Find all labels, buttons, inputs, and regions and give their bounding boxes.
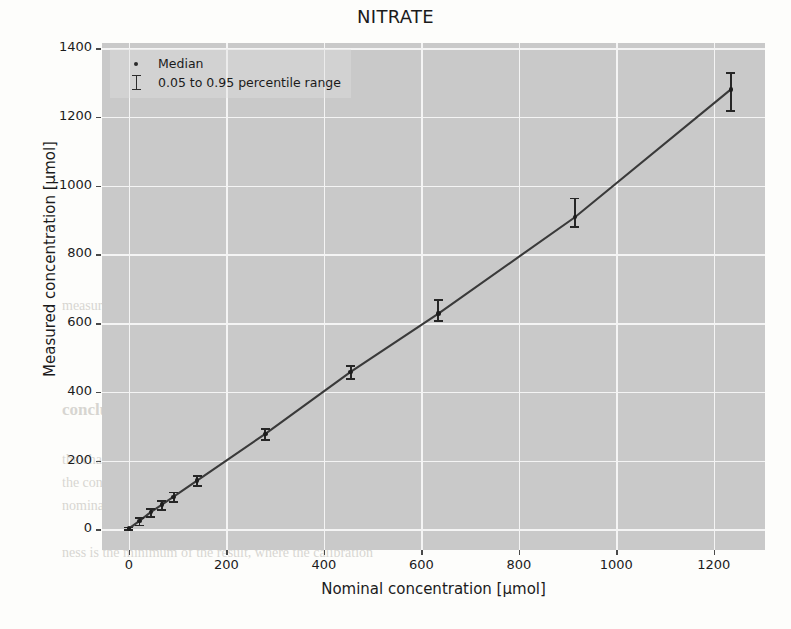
- error-bar-cap-lower: [193, 485, 202, 487]
- data-series-median: [102, 43, 765, 550]
- legend-label: Median: [156, 56, 203, 71]
- trend-line: [102, 43, 765, 550]
- median-marker: [171, 495, 175, 499]
- error-bar-cap-lower: [570, 226, 579, 228]
- y-tick: [96, 186, 101, 187]
- x-tick: [519, 550, 520, 555]
- median-marker: [729, 87, 733, 91]
- x-tick-label: 1000: [576, 557, 656, 572]
- error-bar-cap-lower: [146, 516, 155, 518]
- median-marker: [160, 502, 164, 506]
- median-marker: [348, 370, 352, 374]
- error-bar-cap-upper: [169, 492, 178, 494]
- error-bar-cap-upper: [726, 72, 735, 74]
- x-tick-label: 800: [479, 557, 559, 572]
- y-tick-label: 0: [22, 520, 92, 535]
- error-bar-cap-upper: [193, 475, 202, 477]
- x-tick-label: 400: [284, 557, 364, 572]
- error-bar-cap-lower: [261, 439, 270, 441]
- dot-marker-icon: [116, 62, 156, 66]
- y-tick: [96, 461, 101, 462]
- chart-figure: NITRATE Median 0.05 to 0.95 percentile r…: [0, 0, 791, 629]
- error-bar-cap-upper: [346, 365, 355, 367]
- x-axis-label: Nominal concentration [µmol]: [102, 580, 765, 598]
- error-bar-cap-lower: [157, 509, 166, 511]
- error-bar-cap-upper: [261, 428, 270, 430]
- error-bar-cap-lower: [346, 378, 355, 380]
- error-bar-cap-lower: [135, 525, 144, 527]
- error-bar-cap-lower: [726, 110, 735, 112]
- y-tick: [96, 254, 101, 255]
- error-bar-cap-lower: [434, 320, 443, 322]
- x-tick: [421, 550, 422, 555]
- median-marker: [137, 519, 141, 523]
- y-tick: [96, 529, 101, 530]
- y-tick: [96, 392, 101, 393]
- median-marker: [195, 478, 199, 482]
- error-bar: [574, 198, 576, 227]
- error-bar-cap-upper: [157, 500, 166, 502]
- y-tick: [96, 48, 101, 49]
- median-marker: [127, 526, 131, 530]
- error-bar-cap-lower: [169, 501, 178, 503]
- x-tick: [714, 550, 715, 555]
- x-tick: [616, 550, 617, 555]
- x-tick: [324, 550, 325, 555]
- y-axis-label: Measured concentration [µmol]: [41, 19, 59, 499]
- x-tick-label: 200: [186, 557, 266, 572]
- x-tick-label: 0: [89, 557, 169, 572]
- chart-legend: Median 0.05 to 0.95 percentile range: [110, 49, 351, 98]
- x-tick: [129, 550, 130, 555]
- x-tick-label: 1200: [674, 557, 754, 572]
- x-tick: [226, 550, 227, 555]
- error-bar-cap-upper: [570, 198, 579, 200]
- legend-item-median: Median: [116, 54, 341, 73]
- y-tick: [96, 117, 101, 118]
- errorbar-marker-icon: [116, 75, 156, 90]
- plot-area: Median 0.05 to 0.95 percentile range: [102, 43, 765, 550]
- median-marker: [436, 311, 440, 315]
- legend-item-percentile-range: 0.05 to 0.95 percentile range: [116, 73, 341, 92]
- y-tick: [96, 323, 101, 324]
- error-bar: [437, 299, 439, 320]
- x-tick-label: 600: [381, 557, 461, 572]
- legend-label: 0.05 to 0.95 percentile range: [156, 75, 341, 90]
- chart-title: NITRATE: [0, 6, 791, 27]
- error-bar-cap-upper: [434, 299, 443, 301]
- median-marker: [263, 432, 267, 436]
